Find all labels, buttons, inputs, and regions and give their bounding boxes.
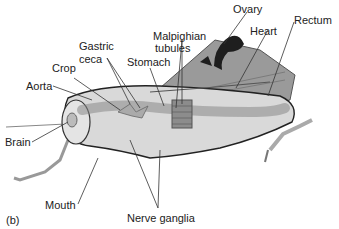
label-stomach: Stomach: [127, 56, 170, 68]
grasshopper-anatomy-diagram: Ovary Heart Rectum Malpighian tubules Ga…: [0, 0, 339, 229]
label-malpighian-line1: Malpighian: [153, 30, 206, 42]
label-crop: Crop: [52, 62, 76, 74]
label-gastric-line1: Gastric: [79, 40, 114, 52]
label-heart: Heart: [250, 25, 277, 37]
label-mouth: Mouth: [45, 199, 76, 211]
antenna: [6, 124, 66, 127]
label-malpighian-line2: tubules: [155, 42, 190, 54]
label-aorta: Aorta: [26, 80, 52, 92]
label-nerve-ganglia: Nerve ganglia: [127, 212, 195, 224]
brain-shape: [67, 113, 77, 127]
label-brain: Brain: [5, 136, 31, 148]
label-rectum: Rectum: [294, 14, 332, 26]
label-ovary: Ovary: [233, 3, 262, 15]
label-gastric-line2: ceca: [79, 53, 102, 65]
panel-label: (b): [6, 214, 19, 226]
